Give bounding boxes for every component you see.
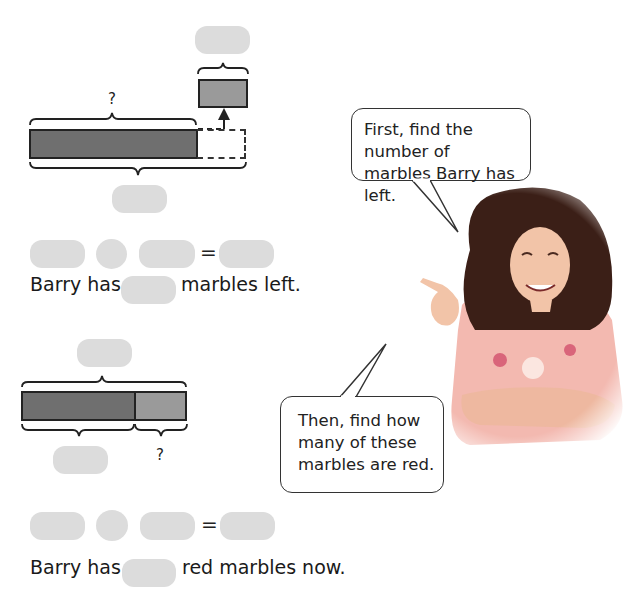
speech-bubble-2-tail-cover xyxy=(0,0,635,601)
